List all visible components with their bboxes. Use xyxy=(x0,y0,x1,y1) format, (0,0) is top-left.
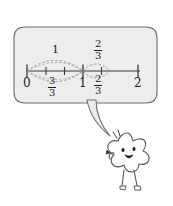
star-leg-left xyxy=(122,170,124,186)
label-one-whole: 1 xyxy=(52,44,59,55)
fraction-two-thirds-above: 2 3 xyxy=(94,39,102,61)
fraction-two-thirds-below: 2 3 xyxy=(94,74,102,96)
fraction-two-thirds-below-numerator: 2 xyxy=(94,74,102,84)
numberline-label-one: 1 xyxy=(79,77,87,89)
star-eye-right xyxy=(133,147,136,151)
fraction-two-thirds-below-denominator: 3 xyxy=(94,86,102,96)
star-eye-left xyxy=(122,148,125,152)
star-sparkle-mark xyxy=(113,130,120,138)
fraction-three-thirds-numerator: 3 xyxy=(48,76,56,86)
fraction-three-thirds: 3 3 xyxy=(48,76,56,98)
illustration-canvas: 0 1 2 1 3 3 2 3 2 3 xyxy=(0,0,173,206)
star-leg-right xyxy=(134,170,137,186)
speech-bubble xyxy=(14,27,157,103)
star-foot-left xyxy=(120,186,126,190)
star-foot-right xyxy=(134,186,141,190)
fraction-two-thirds-above-denominator: 3 xyxy=(94,51,102,61)
scene-vector-layer xyxy=(0,0,173,206)
fraction-two-thirds-above-numerator: 2 xyxy=(94,39,102,49)
numberline-label-two: 2 xyxy=(134,77,142,89)
fraction-three-thirds-denominator: 3 xyxy=(48,88,56,98)
speech-bubble-tail xyxy=(87,100,110,136)
numberline-label-zero: 0 xyxy=(23,77,31,89)
